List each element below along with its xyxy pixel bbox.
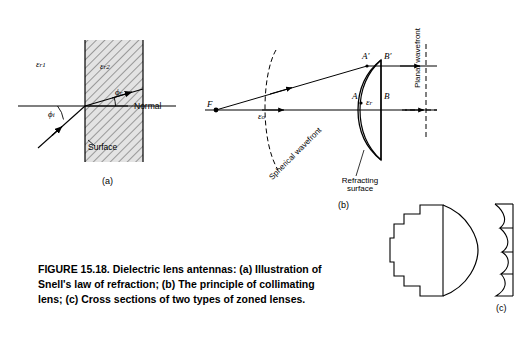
panel-b-label-B-prime: B′ [384,52,391,61]
panel-a-label-normal: Normal [134,102,161,111]
panel-c-zone-4 [496,274,513,296]
panel-b-label-A-prime: A′ [362,52,369,61]
panel-b-tag: (b) [338,200,349,210]
panel-a-label-surface: Surface [88,143,117,152]
panel-c-zoned-lens-left [390,205,443,296]
panel-c-tag: (c) [496,303,507,313]
figure-page: εr1 εr2 ϕi ϕr Normal Surface (a) F A A′ … [0,0,528,348]
panel-b-label-A: A [352,92,358,101]
panel-c-zone-1 [495,204,513,228]
panel-b-label-focus: F [207,100,213,109]
panel-a-label-phi-i: ϕi [48,110,55,119]
panel-b-label-planar-wavefront: Planar wavefront [414,28,422,88]
panel-a-tag: (a) [102,176,113,186]
panel-b-label-eps-o: εo [258,112,265,121]
panel-b-label-eps-r: εr [366,98,372,107]
panel-a-label-eps-r2: εr2 [100,62,110,71]
panel-b-label-refracting-surface: Refracting surface [330,177,390,193]
panel-a-label-phi-r: ϕr [115,88,122,97]
panel-c-zone-3 [501,252,513,274]
panel-b-label-B: B [384,92,390,101]
panel-c-zone-2 [500,228,513,252]
panel-a-label-eps-r1: εr1 [36,60,46,69]
figure-caption: FIGURE 15.18. Dielectric lens antennas: … [38,262,338,308]
